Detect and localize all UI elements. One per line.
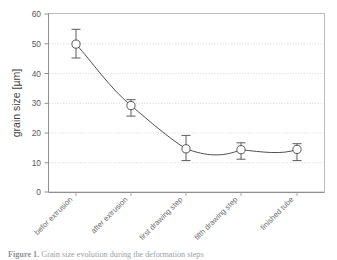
- ytick-label-30: 30: [32, 98, 42, 108]
- figure-caption-label: Figure 1.: [8, 250, 39, 259]
- marker-3: [237, 146, 245, 154]
- ytick-label-50: 50: [32, 39, 42, 49]
- ytick-label-10: 10: [32, 158, 42, 168]
- figure-container: 60 50 40 30 20 10 0 grain size [µm]: [0, 0, 337, 260]
- ytick-label-60: 60: [32, 9, 42, 19]
- figure-caption-text: Grain size evolution during the deformat…: [41, 250, 203, 259]
- y-axis-title: grain size [µm]: [10, 69, 22, 138]
- grain-size-chart: 60 50 40 30 20 10 0 grain size [µm]: [0, 0, 337, 260]
- marker-2: [182, 145, 190, 153]
- ytick-label-20: 20: [32, 128, 42, 138]
- plot-border: [49, 14, 325, 193]
- marker-1: [127, 102, 135, 110]
- marker-4: [293, 145, 301, 153]
- ytick-label-40: 40: [32, 69, 42, 79]
- y-axis-title-group: grain size [µm]: [10, 69, 22, 138]
- figure-caption: Figure 1. Grain size evolution during th…: [8, 250, 333, 259]
- marker-0: [72, 40, 80, 48]
- plot-area: [49, 14, 325, 193]
- ytick-label-0: 0: [36, 187, 41, 197]
